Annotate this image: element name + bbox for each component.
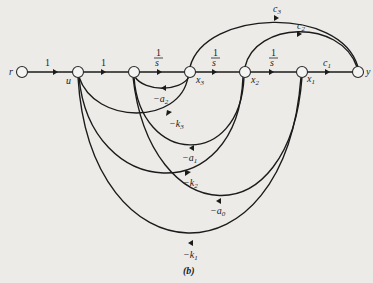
label-node-x3: x3 <box>195 74 204 87</box>
label-node-y: y <box>365 66 371 77</box>
arrow-icon <box>166 110 172 116</box>
gain-k1: −k1 <box>183 249 198 262</box>
label-node-x2: x2 <box>250 74 259 87</box>
gain-c3: c3 <box>273 3 281 16</box>
node-x2 <box>240 67 251 78</box>
arrow-icon <box>157 69 162 75</box>
label-node-u: u <box>66 75 71 86</box>
edge-c2 <box>245 32 357 67</box>
gain-x2-x1: 1 s <box>269 47 278 68</box>
gain-a2: −a2 <box>153 93 169 106</box>
label-node-x1: x1 <box>306 73 315 86</box>
arrow-icon <box>188 240 193 246</box>
gain-c2: c2 <box>297 20 305 33</box>
gain-a1: −a1 <box>182 152 197 165</box>
arrow-icon <box>101 69 106 75</box>
arrow-icon <box>161 85 166 91</box>
node-x1 <box>297 67 308 78</box>
node-r <box>17 67 28 78</box>
node-x3 <box>185 67 196 78</box>
figure-caption: (b) <box>183 265 195 277</box>
node-y <box>353 67 364 78</box>
signal-flow-graph: r u x3 x2 x1 y 1 1 1 s 1 s 1 s c1 c3 c2 … <box>0 0 373 283</box>
gain-n3-x3: 1 s <box>154 47 163 68</box>
node-n3 <box>129 67 140 78</box>
svg-text:s: s <box>155 57 159 68</box>
arrow-icon <box>212 69 217 75</box>
label-node-r: r <box>9 66 13 77</box>
node-u <box>73 67 84 78</box>
arrow-icon <box>53 69 58 75</box>
arrow-icon <box>189 145 194 151</box>
gain-x1-y: c1 <box>323 57 331 70</box>
gain-a0: −a0 <box>210 205 226 218</box>
svg-text:s: s <box>212 57 216 68</box>
arrow-icon <box>185 170 191 176</box>
gain-u-n3: 1 <box>101 57 106 68</box>
arrow-icon <box>216 198 221 204</box>
svg-text:s: s <box>270 57 274 68</box>
edge-a2 <box>135 77 189 88</box>
gain-k3: −k3 <box>169 118 184 131</box>
arrow-icon <box>269 69 274 75</box>
gain-x3-x2: 1 s <box>211 47 220 68</box>
gain-r-u: 1 <box>45 57 50 68</box>
